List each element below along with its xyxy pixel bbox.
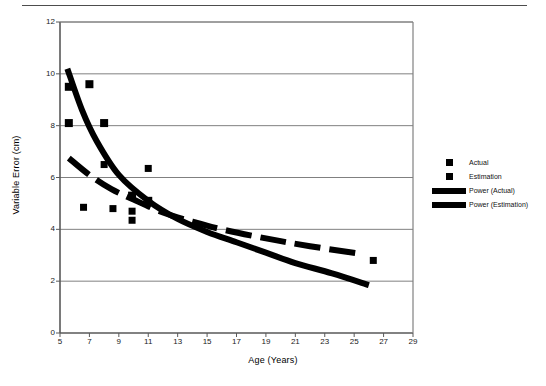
legend-item: Power (Actual) [432, 184, 544, 197]
x-tick-label: 13 [166, 337, 190, 346]
y-tick-label: 8 [37, 121, 55, 130]
x-tick-label: 29 [401, 337, 425, 346]
legend-swatch [432, 202, 466, 208]
x-tick-label: 11 [136, 337, 160, 346]
thick-line-icon [432, 188, 466, 194]
y-axis-label: Variable Error (cm) [11, 75, 21, 275]
square-marker-icon [432, 173, 466, 180]
y-tick-label: 0 [37, 328, 55, 337]
x-tick-label: 7 [77, 337, 101, 346]
x-tick-label: 25 [342, 337, 366, 346]
thick-line-icon [432, 202, 466, 208]
x-tick-label: 27 [372, 337, 396, 346]
x-tick-label: 9 [107, 337, 131, 346]
y-tick-label: 4 [37, 224, 55, 233]
y-tick-label: 12 [37, 17, 55, 26]
square-marker-icon [432, 159, 466, 166]
chart-legend: ActualEstimationPower (Actual)Power (Est… [432, 156, 544, 212]
y-tick-label: 10 [37, 69, 55, 78]
y-tick-label: 6 [37, 173, 55, 182]
legend-label: Actual [466, 159, 488, 166]
legend-swatch [446, 159, 453, 166]
legend-swatch [432, 188, 466, 194]
x-tick-label: 17 [225, 337, 249, 346]
x-tick-label: 23 [313, 337, 337, 346]
series-power-actual-curve [67, 69, 369, 285]
tick-marks [56, 22, 413, 337]
x-tick-label: 5 [48, 337, 72, 346]
legend-swatch [446, 173, 453, 180]
x-tick-label: 19 [254, 337, 278, 346]
legend-item: Power (Estimation) [432, 198, 544, 211]
x-tick-label: 15 [195, 337, 219, 346]
legend-label: Power (Estimation) [466, 201, 528, 208]
legend-item: Actual [432, 156, 544, 169]
legend-label: Power (Actual) [466, 187, 515, 194]
legend-label: Estimation [466, 173, 502, 180]
x-axis-label: Age (Years) [0, 355, 546, 365]
legend-item: Estimation [432, 170, 544, 183]
y-tick-label: 2 [37, 276, 55, 285]
x-tick-label: 21 [283, 337, 307, 346]
